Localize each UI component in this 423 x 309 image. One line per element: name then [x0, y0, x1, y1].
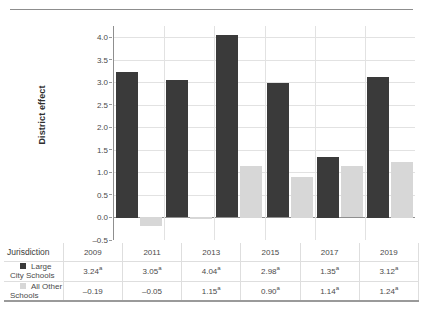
cell-footnote-marker: a [336, 265, 339, 271]
cell-value: 1.15 [202, 287, 218, 296]
table-cell-2013: 1.15a [182, 281, 241, 301]
y-tick-mark [109, 82, 112, 83]
y-tick-label: 2.0 [97, 123, 108, 132]
bottom-divider-rule [4, 300, 419, 302]
cell-value: 4.04 [202, 267, 218, 276]
cell-value: 3.12 [379, 267, 395, 276]
table-cell-2017: 1.14a [300, 281, 359, 301]
y-tick-label: 3.0 [97, 78, 108, 87]
y-tick-mark [109, 172, 112, 173]
figure-container: District effect 4.03.53.02.52.01.51.00.5… [0, 0, 423, 309]
table-row: All Other Schools–0.19–0.051.15a0.90a1.1… [4, 281, 419, 301]
cell-value: 1.14 [320, 287, 336, 296]
y-axis-title: District effect [37, 55, 47, 175]
bar-all-other-schools-2011 [190, 217, 212, 219]
table-cell-2015: 2.98a [241, 262, 300, 282]
legend-swatch-light [20, 283, 26, 289]
table-cell-2019: 3.12a [359, 262, 418, 282]
legend-label: All Other Schools [10, 282, 62, 300]
table-row: Large City Schools3.24a3.05a4.04a2.98a1.… [4, 262, 419, 282]
bar-all-other-schools-2017 [341, 166, 363, 217]
gridline-vertical [365, 26, 366, 240]
column-header-2017: 2017 [300, 243, 359, 262]
table-header-row: Jurisdiction 2009 2011 2013 2015 2017 20… [4, 243, 419, 262]
bar-chart: District effect 4.03.53.02.52.01.51.00.5… [0, 14, 423, 244]
gridline-vertical [164, 26, 165, 240]
y-tick-label: 0.0 [97, 213, 108, 222]
y-tick-label: 1.0 [97, 168, 108, 177]
table-cell-2009: –0.19 [63, 281, 122, 301]
table-row-header-label: Jurisdiction [4, 243, 63, 262]
cell-footnote-marker: a [395, 265, 398, 271]
column-header-2013: 2013 [182, 243, 241, 262]
cell-footnote-marker: a [158, 265, 161, 271]
y-tick-mark [109, 104, 112, 105]
y-axis-line [113, 26, 114, 240]
column-header-2019: 2019 [359, 243, 418, 262]
gridline-vertical [214, 26, 215, 240]
y-tick-mark [109, 127, 112, 128]
y-tick-mark [109, 37, 112, 38]
cell-value: 3.05 [143, 267, 159, 276]
table-cell-2011: 3.05a [122, 262, 181, 282]
legend-swatch-dark [20, 263, 26, 269]
table-cell-2019: 1.24a [359, 281, 418, 301]
bar-all-other-schools-2019 [391, 162, 413, 218]
bar-large-city-schools-2017 [317, 157, 339, 218]
cell-footnote-marker: a [277, 285, 280, 291]
column-header-2011: 2011 [122, 243, 181, 262]
y-tick-mark [109, 149, 112, 150]
cell-footnote-marker: a [395, 285, 398, 291]
y-tick-label: 3.5 [97, 55, 108, 64]
legend-label: Large City Schools [10, 262, 54, 280]
bar-large-city-schools-2013 [216, 35, 238, 217]
plot-area [114, 26, 415, 240]
y-axis-tick-labels: 4.03.53.02.52.01.51.00.50.0–0.5 [86, 14, 112, 240]
data-table: Jurisdiction 2009 2011 2013 2015 2017 20… [4, 243, 419, 302]
bar-large-city-schools-2011 [166, 80, 188, 217]
cell-footnote-marker: a [277, 265, 280, 271]
top-divider-rule [10, 9, 413, 10]
cell-value: –0.05 [142, 287, 162, 296]
table-cell-2015: 0.90a [241, 281, 300, 301]
cell-footnote-marker: a [217, 285, 220, 291]
cell-value: 0.90 [261, 287, 277, 296]
legend-row-light: All Other Schools [4, 281, 63, 301]
gridline-vertical [265, 26, 266, 240]
bar-all-other-schools-2013 [240, 166, 262, 218]
table-cell-2017: 1.35a [300, 262, 359, 282]
cell-value: 2.98 [261, 267, 277, 276]
table-cell-2013: 4.04a [182, 262, 241, 282]
bar-large-city-schools-2019 [367, 77, 389, 218]
y-tick-label: 1.5 [97, 145, 108, 154]
y-tick-mark [109, 59, 112, 60]
cell-value: 3.24 [83, 267, 99, 276]
bar-large-city-schools-2009 [116, 72, 138, 218]
y-tick-label: 2.5 [97, 100, 108, 109]
cell-footnote-marker: a [99, 265, 102, 271]
column-header-2009: 2009 [63, 243, 122, 262]
table-cell-2011: –0.05 [122, 281, 181, 301]
cell-value: 1.24 [379, 287, 395, 296]
bar-large-city-schools-2015 [267, 83, 289, 217]
cell-value: –0.19 [83, 287, 103, 296]
y-tick-mark [109, 194, 112, 195]
column-header-2015: 2015 [241, 243, 300, 262]
y-tick-label: 0.5 [97, 190, 108, 199]
cell-footnote-marker: a [336, 285, 339, 291]
cell-value: 1.35 [320, 267, 336, 276]
data-table-container: Jurisdiction 2009 2011 2013 2015 2017 20… [4, 243, 419, 298]
table-cell-2009: 3.24a [63, 262, 122, 282]
bar-all-other-schools-2015 [291, 177, 313, 218]
gridline-vertical [315, 26, 316, 240]
y-tick-mark [109, 217, 112, 218]
legend-row-dark: Large City Schools [4, 262, 63, 282]
bar-all-other-schools-2009 [140, 217, 162, 226]
cell-footnote-marker: a [217, 265, 220, 271]
y-tick-mark [109, 240, 112, 241]
y-tick-label: 4.0 [97, 33, 108, 42]
